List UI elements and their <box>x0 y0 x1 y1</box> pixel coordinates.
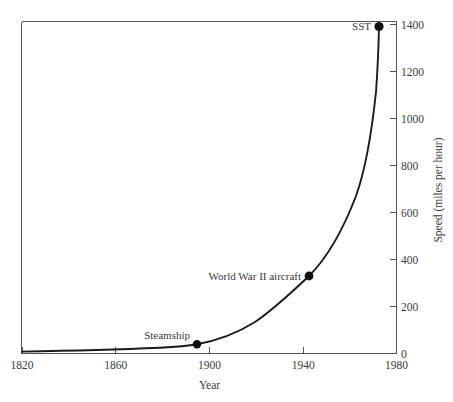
data-point-wwii-aircraft <box>305 272 314 281</box>
speed-vs-year-line-chart: 1820 1860 1900 1940 1980 Year 0 200 400 … <box>0 0 453 402</box>
x-axis-title: Year <box>199 379 220 391</box>
label-sst: SST <box>352 20 371 32</box>
y-tick-label-600: 600 <box>401 207 419 219</box>
y-tick-label-0: 0 <box>401 348 407 360</box>
y-tick-label-400: 400 <box>401 254 419 266</box>
y-tick-label-1200: 1200 <box>401 66 424 78</box>
x-tick-label-1980: 1980 <box>385 359 408 371</box>
x-tick-label-1940: 1940 <box>292 359 315 371</box>
data-point-steamship <box>193 340 201 348</box>
x-tick-label-1860: 1860 <box>104 359 127 371</box>
label-wwii-aircraft: World War II aircraft <box>209 270 301 282</box>
y-tick-label-200: 200 <box>401 301 419 313</box>
x-tick-label-1820: 1820 <box>11 359 34 371</box>
y-tick-label-1400: 1400 <box>401 19 424 31</box>
data-point-sst <box>374 22 383 31</box>
chart-background <box>0 0 453 402</box>
x-tick-label-1900: 1900 <box>198 359 221 371</box>
y-tick-label-800: 800 <box>401 160 419 172</box>
label-steamship: Steamship <box>144 329 190 341</box>
chart-container: 1820 1860 1900 1940 1980 Year 0 200 400 … <box>0 0 453 402</box>
y-tick-label-1000: 1000 <box>401 113 424 125</box>
y-axis-title: Speed (miles per hour) <box>432 137 445 242</box>
